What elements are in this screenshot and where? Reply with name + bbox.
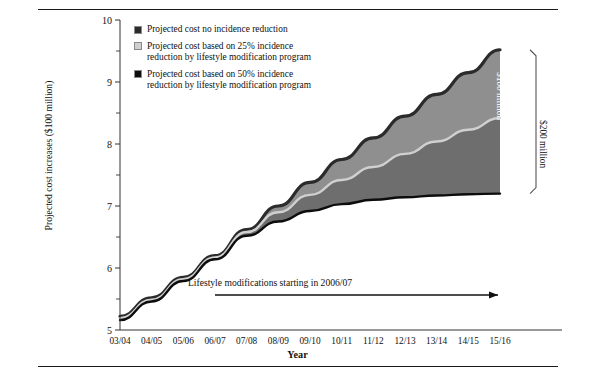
figure-container: Projected cost increases ($100 million) … (0, 0, 595, 385)
x-axis-title: Year (0, 349, 595, 360)
x-tick-label: 07/08 (236, 336, 257, 346)
y-tick-label: 7 (90, 201, 112, 212)
y-tick-label: 8 (90, 139, 112, 150)
legend-label-no-reduction: Projected cost no incidence reduction (147, 24, 288, 35)
bracket-label-100-million: $100 million (495, 72, 505, 120)
legend-item: Projected cost no incidence reduction (134, 24, 394, 35)
x-tick-label: 04/05 (141, 336, 162, 346)
x-tick-label: 13/14 (426, 336, 447, 346)
x-tick-label: 15/16 (489, 336, 510, 346)
legend-swatch-25-reduction (134, 42, 142, 50)
lifestyle-modification-annotation: Lifestyle modifications starting in 2006… (188, 277, 352, 288)
legend-label-50-reduction: Projected cost based on 50% incidence re… (147, 69, 311, 92)
x-tick-label: 10/11 (331, 336, 352, 346)
x-tick-label: 08/09 (268, 336, 289, 346)
y-tick-label: 6 (90, 263, 112, 274)
y-axis-title: Projected cost increases ($100 million) (43, 56, 54, 256)
curve-50-reduction (120, 194, 500, 320)
y-tick-label: 5 (90, 325, 112, 336)
y-tick-label: 10 (90, 15, 112, 26)
bracket-200-million (530, 50, 536, 194)
x-tick-label: 06/07 (204, 336, 225, 346)
x-tick-label: 11/12 (363, 336, 384, 346)
legend-swatch-50-reduction (134, 70, 142, 78)
annotation-arrow-head (489, 291, 498, 298)
x-tick-label: 09/10 (299, 336, 320, 346)
x-tick-label: 03/04 (109, 336, 130, 346)
legend-item: Projected cost based on 50% incidence re… (134, 69, 394, 92)
band-50-reduction (120, 118, 500, 320)
bracket-label-200-million: $200 million (538, 120, 548, 168)
legend-item: Projected cost based on 25% incidence re… (134, 41, 394, 64)
y-tick-label: 9 (90, 77, 112, 88)
x-tick-label: 05/06 (173, 336, 194, 346)
x-tick-label: 14/15 (458, 336, 479, 346)
legend-swatch-no-reduction (134, 26, 142, 34)
x-tick-label: 12/13 (394, 336, 415, 346)
legend-label-25-reduction: Projected cost based on 25% incidence re… (147, 41, 311, 64)
chart-legend: Projected cost no incidence reduction Pr… (134, 24, 394, 97)
